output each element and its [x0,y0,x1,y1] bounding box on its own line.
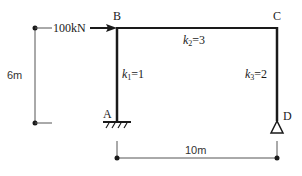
span-dimension: 10m [115,141,280,161]
height-label: 6m [7,69,22,81]
load-label: 100kN [53,21,86,35]
frame-diagram: 6m 100kN 10m B C A D k1=1 k2=3 k [0,0,302,176]
stiffness-label-cd: k3=2 [245,67,267,82]
span-label: 10m [185,144,206,156]
node-label-d: D [283,109,292,123]
pin-support-icon [271,121,283,133]
height-dimension: 6m [4,26,52,126]
node-label-c: C [273,9,281,23]
stiffness-label-ab: k1=1 [122,67,144,82]
node-label-b: B [113,9,121,23]
load-arrow: 100kN [35,21,117,35]
fixed-support-icon [103,122,131,128]
stiffness-label-bc: k2=3 [183,33,205,48]
node-label-a: A [103,107,112,121]
